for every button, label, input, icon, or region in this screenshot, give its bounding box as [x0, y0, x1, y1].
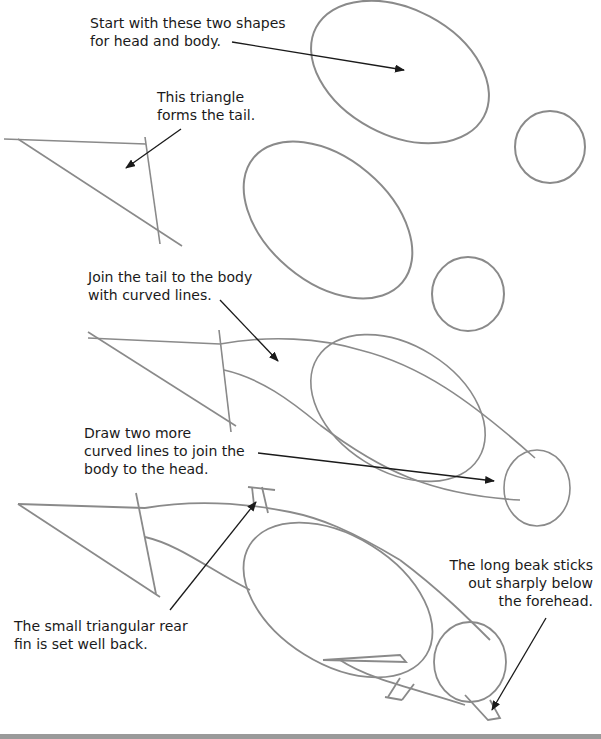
step3-join [88, 304, 570, 526]
caption-tail-triangle: This triangle forms the tail. [157, 88, 255, 124]
drawing-tutorial-page: Start with these two shapes for head and… [0, 0, 601, 739]
caption-join-tail: Join the tail to the body with curved li… [88, 268, 252, 304]
caption-start-shapes: Start with these two shapes for head and… [90, 14, 286, 50]
step2-tail [4, 137, 182, 246]
step1-shapes [287, 0, 585, 183]
bottom-edge-strip [0, 734, 601, 739]
caption-rear-fin: The small triangular rear fin is set wel… [14, 617, 188, 653]
step5-final [18, 487, 506, 720]
caption-long-beak: The long beak sticks out sharply below t… [449, 556, 593, 610]
caption-join-head: Draw two more curved lines to join the b… [84, 424, 245, 478]
